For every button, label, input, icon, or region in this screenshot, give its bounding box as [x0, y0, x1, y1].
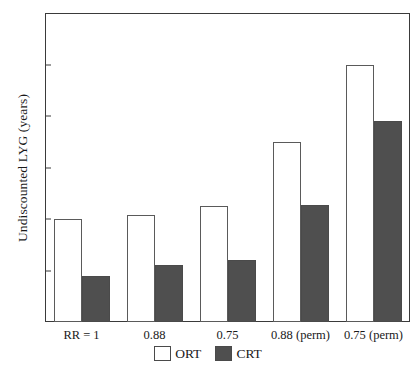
- x-tick-label: 0.75: [217, 328, 239, 343]
- legend-label: CRT: [236, 347, 261, 361]
- legend-swatch-ort-icon: [154, 346, 171, 361]
- x-tick-label: RR = 1: [63, 328, 99, 343]
- x-tick-label: 0.88 (perm): [271, 328, 330, 343]
- x-tick-label: 0.75 (perm): [344, 328, 403, 343]
- y-tick-mark: [45, 219, 51, 220]
- plot-area: [45, 13, 410, 322]
- chart-legend: ORTCRT: [0, 346, 416, 361]
- y-tick-mark: [45, 64, 51, 65]
- legend-swatch-crt-icon: [215, 346, 232, 361]
- y-tick-mark: [45, 167, 51, 168]
- y-axis-title: Undiscounted LYG (years): [15, 53, 31, 283]
- y-tick-mark: [45, 116, 51, 117]
- legend-entry-ort: ORT: [154, 346, 201, 361]
- y-tick-mark: [45, 270, 51, 271]
- legend-label: ORT: [175, 347, 201, 361]
- bar-chart: Undiscounted LYG (years) 00.10.20.30.40.…: [0, 0, 416, 369]
- x-tick-label: 0.88: [144, 328, 166, 343]
- legend-entry-crt: CRT: [215, 346, 261, 361]
